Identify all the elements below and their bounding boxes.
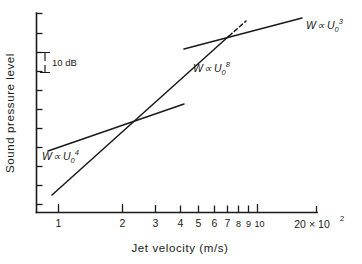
x-tick-label-3: 3: [153, 217, 159, 229]
svg-text:W∝U03: W∝U03: [306, 17, 344, 34]
x-tick-label-1: 1: [56, 217, 62, 229]
curve-label-u4-prop: ∝: [53, 150, 61, 162]
x-tick-label-4: 4: [178, 217, 184, 229]
y-axis-title: Sound pressure level: [4, 53, 16, 173]
x-tick-label-5: 5: [196, 217, 202, 229]
x-axis-exponent-group: 20 × 10 2: [294, 214, 344, 230]
curve-label-u3-prefix: W: [306, 19, 317, 31]
curve-label-u8-sub: 0: [222, 68, 227, 77]
x-tick-labels: 1 2 3 4 5 6 7 8 9 10: [56, 217, 265, 229]
curve-label-u3-sub: 0: [335, 25, 340, 34]
curve-label-u8-sup: 8: [226, 60, 231, 69]
curve-label-u8-prefix: W: [193, 62, 204, 74]
data-series-group: [48, 18, 302, 195]
curve-label-u4: W∝U04: [42, 148, 79, 165]
axis-group: [37, 13, 318, 213]
curve-label-u3-prop: ∝: [317, 19, 325, 31]
x-axis-exponent-power: 2: [340, 214, 344, 223]
scale-bar-top-tick: [40, 53, 50, 62]
series-line-u4: [48, 104, 184, 151]
svg-text:W∝U08: W∝U08: [193, 60, 231, 77]
svg-text:W∝U04: W∝U04: [42, 148, 79, 165]
curve-label-u4-sup: 4: [75, 148, 79, 157]
x-axis-title: Jet velocity (m/s): [131, 242, 228, 254]
curve-label-u8-prop: ∝: [204, 62, 212, 74]
x-axis-exponent-label: 20: [294, 218, 306, 230]
curve-label-u3: W∝U03: [306, 17, 344, 34]
x-tick-label-7: 7: [225, 217, 231, 229]
scale-bar-group: 10 dB: [40, 53, 77, 73]
figure-container: 1 2 3 4 5 6 7 8 9 10 20 × 10 2 10 dB: [0, 0, 362, 264]
scale-bar-label: 10 dB: [52, 57, 77, 68]
series-line-u8: [52, 36, 229, 195]
x-tick-label-6: 6: [212, 217, 218, 229]
x-axis-exponent-multiplier: × 10: [309, 218, 330, 230]
x-axis-ticks: [59, 204, 317, 213]
curve-label-u8: W∝U08: [193, 60, 231, 77]
x-tick-label-10: 10: [254, 219, 264, 229]
curve-label-u4-sub: 0: [71, 156, 76, 165]
x-tick-label-9: 9: [246, 219, 251, 229]
y-axis-ticks: [37, 14, 43, 205]
x-tick-label-2: 2: [120, 217, 126, 229]
series-line-u3: [184, 18, 302, 49]
x-tick-label-8: 8: [236, 219, 241, 229]
chart-svg: 1 2 3 4 5 6 7 8 9 10 20 × 10 2 10 dB: [0, 0, 362, 264]
curve-label-u3-sup: 3: [339, 17, 344, 26]
curve-label-u4-prefix: W: [42, 150, 53, 162]
